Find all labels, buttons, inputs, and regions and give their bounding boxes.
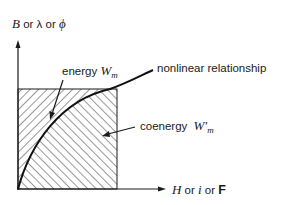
energy-symbol: W [100,63,111,78]
y-label-phi: ϕ [59,16,66,31]
curve-label-text: nonlinear relationship [157,62,266,74]
energy-label: energy Wm [62,64,118,78]
y-label-b: B [12,16,20,31]
coenergy-symbol: W' [194,118,208,133]
x-label-or1: or [181,184,198,196]
coenergy-subscript: m [207,125,214,135]
energy-word: energy [62,65,97,77]
x-label-or2: or [202,184,219,196]
y-axis-arrow-icon [16,40,21,48]
y-label-or1: or [20,18,37,30]
curve-label: nonlinear relationship [157,63,266,75]
coenergy-word: coenergy [140,120,187,132]
energy-coenergy-diagram [0,0,287,205]
energy-subscript: m [111,70,118,80]
x-label-f: F [218,183,226,197]
y-axis-label: B or λ or ϕ [12,17,66,31]
x-axis-arrow-icon [158,187,166,192]
x-label-h: H [172,182,181,197]
x-axis-label: H or i or F [172,183,226,197]
coenergy-label: coenergy W'm [140,119,214,133]
y-label-or2: or [42,18,59,30]
